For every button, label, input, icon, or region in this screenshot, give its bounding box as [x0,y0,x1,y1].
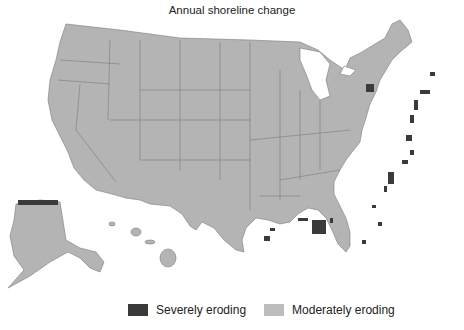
hawaii [109,222,176,267]
contiguous-us [48,20,412,252]
legend-item-moderate: Moderately eroding [264,303,395,317]
legend-label-severe: Severely eroding [156,303,246,317]
legend-item-severe: Severely eroding [128,303,246,317]
legend: Severely eroding Moderately eroding [128,303,413,317]
alaska [8,200,104,288]
severe-swatch [128,304,148,316]
legend-label-moderate: Moderately eroding [292,303,395,317]
moderate-swatch [264,304,284,316]
us-shoreline-map [0,0,464,300]
